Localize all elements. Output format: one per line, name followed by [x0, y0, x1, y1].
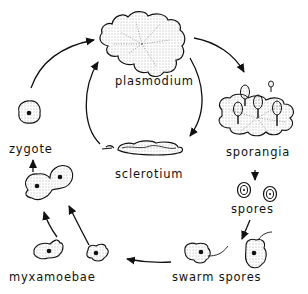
label-spores: spores [231, 204, 274, 216]
arrow-swarm-spores-to-myxamoebae [127, 259, 171, 262]
label-sclerotium: sclerotium [115, 169, 183, 181]
arrow-plasmodium-to-sclerotium [190, 58, 202, 136]
swarm-spores-illustration [185, 232, 272, 268]
zygote-illustration [19, 101, 41, 123]
sporangia-illustration [219, 81, 293, 136]
arrow-plasmodium-to-sporangia [194, 38, 244, 72]
label-zygote: zygote [9, 144, 53, 156]
arrow-myxamoeba-right-to-fusion [69, 206, 89, 245]
label-myxamoebae: myxamoebae [9, 272, 96, 284]
label-plasmodium: plasmodium [115, 76, 194, 88]
arrow-zygote-to-plasmodium [31, 40, 94, 88]
label-swarm-spores: swarm spores [172, 272, 261, 284]
spores-illustration [238, 183, 277, 202]
label-sporangia: sporangia [226, 147, 290, 159]
arrow-spores-to-swarm-spores [242, 220, 250, 239]
arrow-sclerotium-to-plasmodium [86, 62, 100, 144]
plasmodium-illustration [100, 12, 185, 77]
myxamoebae-illustration [34, 240, 108, 261]
arrow-myxamoeba-left-to-fusion [44, 212, 57, 237]
sclerotium-illustration [102, 141, 183, 155]
life-cycle-diagram: plasmodium sporangia spores swarm spores… [0, 0, 308, 294]
